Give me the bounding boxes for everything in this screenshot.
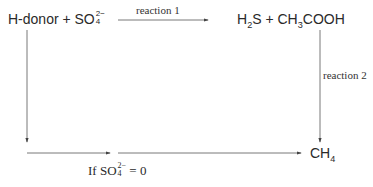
reactants-node: H-donor + SO2−4 <box>8 12 105 28</box>
h2s-tail: S + CH <box>252 11 298 27</box>
products-node: H2S + CH3COOH <box>237 12 345 26</box>
methane-node: CH4 <box>310 146 335 160</box>
methane-base: CH <box>310 145 330 161</box>
h2s-h: H <box>237 11 247 27</box>
condition-prefix: If SO <box>88 163 117 178</box>
reaction2-label: reaction 2 <box>323 70 367 81</box>
condition-label: If SO2−4 = 0 <box>88 164 146 180</box>
condition-suffix: = 0 <box>126 163 146 178</box>
reaction1-label: reaction 1 <box>136 5 180 16</box>
cooh-text: COOH <box>303 11 345 27</box>
sulfate-subscript: 4 <box>96 18 105 26</box>
reactants-text: H-donor + SO <box>8 11 95 27</box>
methane-sub: 4 <box>330 154 335 164</box>
condition-subscript: 4 <box>118 170 127 178</box>
